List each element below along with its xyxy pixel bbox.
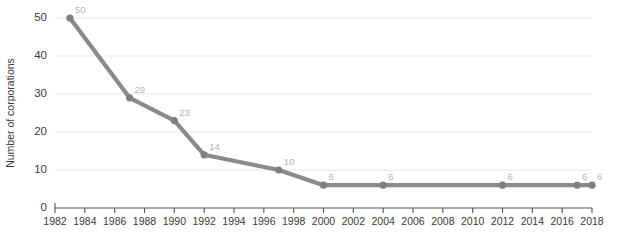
data-point-label: 50 (75, 4, 86, 15)
data-point-label: 23 (179, 107, 190, 118)
y-tick-group: 01020304050 (34, 11, 47, 213)
x-tick-label: 2010 (461, 215, 485, 227)
x-tick-label: 2018 (580, 215, 604, 227)
axis-group (55, 203, 592, 208)
data-point-marker (588, 182, 595, 189)
data-point-marker (320, 182, 327, 189)
data-point-marker (126, 94, 133, 101)
data-point-marker (499, 182, 506, 189)
series-group (66, 14, 595, 188)
data-point-label: 6 (597, 171, 602, 182)
x-tick-label: 1992 (192, 215, 216, 227)
x-tick-label: 2014 (521, 215, 545, 227)
data-point-marker (201, 151, 208, 158)
data-point-marker (66, 14, 73, 21)
x-tick-label: 1994 (222, 215, 246, 227)
x-tick-label: 1982 (43, 215, 67, 227)
data-point-label: 6 (582, 171, 587, 182)
y-tick-label: 30 (34, 87, 47, 99)
x-tick-label: 1984 (73, 215, 97, 227)
x-tick-label: 2006 (401, 215, 425, 227)
y-tick-label: 0 (41, 201, 47, 213)
data-point-marker (380, 182, 387, 189)
x-tick-group: 1982198419861988199019921994199619982000… (43, 208, 604, 227)
data-point-label: 6 (508, 171, 513, 182)
x-tick-label: 1990 (163, 215, 187, 227)
chart-canvas: 1982198419861988199019921994199619982000… (0, 0, 619, 249)
data-point-label: 14 (209, 141, 220, 152)
series-line (70, 18, 592, 185)
x-tick-label: 2016 (550, 215, 574, 227)
x-tick-label: 2008 (431, 215, 455, 227)
x-tick-label: 2004 (371, 215, 395, 227)
data-point-label: 6 (329, 171, 334, 182)
y-tick-label: 10 (34, 163, 47, 175)
point-labels-group: 502923141066666 (75, 4, 602, 182)
x-tick-label: 2002 (342, 215, 366, 227)
line-chart: 1982198419861988199019921994199619982000… (0, 0, 619, 249)
data-point-marker (275, 166, 282, 173)
x-tick-label: 1988 (133, 215, 157, 227)
x-tick-label: 1996 (252, 215, 276, 227)
y-axis-title: Number of corporations (4, 58, 16, 168)
x-tick-label: 2012 (491, 215, 515, 227)
data-point-marker (171, 117, 178, 124)
data-point-label: 10 (284, 156, 295, 167)
y-tick-label: 20 (34, 125, 47, 137)
x-tick-label: 2000 (312, 215, 336, 227)
x-tick-label: 1998 (282, 215, 306, 227)
x-tick-label: 1986 (103, 215, 127, 227)
data-point-marker (573, 182, 580, 189)
data-point-label: 29 (135, 84, 146, 95)
data-point-label: 6 (388, 171, 393, 182)
y-tick-label: 50 (34, 11, 47, 23)
y-tick-label: 40 (34, 49, 47, 61)
